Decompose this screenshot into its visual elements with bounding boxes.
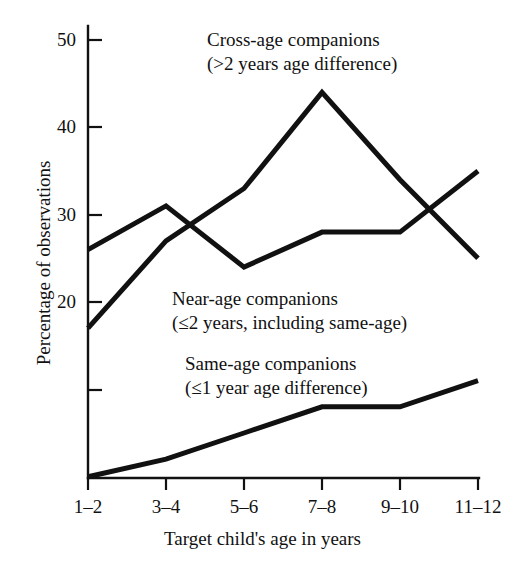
- annotation-near-age: Near-age companions (≤2 years, including…: [172, 287, 407, 336]
- chart-figure: 50 40 30 20 1–2 3–4 5–6 7–8 9–10 11–12 P…: [0, 0, 525, 572]
- annotation-same-age: Same-age companions (≤1 year age differe…: [185, 352, 368, 401]
- x-axis-title: Target child's age in years: [0, 528, 525, 550]
- annotation-near-age-line2: (≤2 years, including same-age): [172, 311, 407, 335]
- annotation-near-age-line1: Near-age companions: [172, 288, 338, 309]
- annotation-cross-age-line1: Cross-age companions: [207, 29, 380, 50]
- chart-plot-area: [0, 0, 525, 572]
- x-tick-label-5-6: 5–6: [209, 497, 279, 516]
- y-tick-label-50: 50: [20, 30, 76, 49]
- x-tick-label-1-2: 1–2: [53, 497, 123, 516]
- annotation-same-age-line1: Same-age companions: [185, 353, 356, 374]
- annotation-cross-age: Cross-age companions (>2 years age diffe…: [207, 28, 397, 77]
- x-tick-label-3-4: 3–4: [131, 497, 201, 516]
- annotation-same-age-line2: (≤1 year age difference): [185, 376, 368, 400]
- x-tick-label-7-8: 7–8: [287, 497, 357, 516]
- annotation-cross-age-line2: (>2 years age difference): [207, 52, 397, 76]
- y-tick-label-40: 40: [20, 117, 76, 136]
- x-tick-label-9-10: 9–10: [365, 497, 435, 516]
- y-axis-title: Percentage of observations: [33, 143, 55, 383]
- x-tick-label-11-12: 11–12: [443, 497, 513, 516]
- series-line-near-age: [88, 171, 478, 267]
